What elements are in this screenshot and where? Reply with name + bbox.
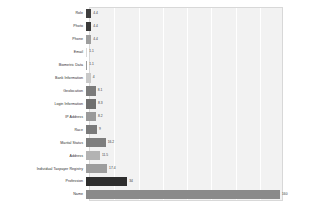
bar [86,99,96,108]
bar-row: Geolocation8.1 [0,85,312,98]
bar-value-label: 1.1 [89,50,94,54]
bar-row: Profession34 [0,175,312,188]
bar-value-label: 4.4 [93,12,98,16]
bar-value-label: 1.1 [89,63,94,67]
bar-track: 16.2 [86,136,312,149]
bar [86,112,96,121]
bar-value-label: 17.4 [109,167,115,171]
bar-track: 8.1 [86,85,312,98]
bar-value-label: 4 [93,76,95,80]
bar-track: 8.3 [86,97,312,110]
bar [86,61,87,70]
bar [86,73,91,82]
bar-value-label: 9 [99,128,101,132]
category-label: Photo [0,24,86,28]
bar-track: 160 [86,188,312,201]
bar [86,138,106,147]
bar-track: 4 [86,72,312,85]
bar-row: IP Address8.2 [0,110,312,123]
bar-value-label: 160 [282,193,288,197]
bar-track: 4.4 [86,33,312,46]
bar [86,151,100,160]
bar-value-label: 16.2 [108,141,114,145]
bar-track: 1.1 [86,46,312,59]
category-label: Profession [0,179,86,183]
bar-row: Biometric Data1.1 [0,59,312,72]
bar-track: 8.2 [86,110,312,123]
bar-row: Race9 [0,123,312,136]
bar-track: 11.5 [86,149,312,162]
bar-rows-container: Role4.4Photo4.4Phone4.4Email1.1Biometric… [0,7,312,201]
bar-value-label: 8.2 [98,115,103,119]
bar [86,35,91,44]
bar-row: Role4.4 [0,7,312,20]
bar [86,9,91,18]
category-label: Email [0,50,86,54]
bar-value-label: 11.5 [102,154,108,158]
category-label: Marital Status [0,141,86,145]
bar-track: 17.4 [86,162,312,175]
bar-chart: Role4.4Photo4.4Phone4.4Email1.1Biometric… [0,0,312,208]
category-label: Individual Taxpayer Registry [0,167,86,171]
bar-track: 4.4 [86,7,312,20]
bar [86,177,127,186]
bar [86,190,280,199]
bar-value-label: 4.4 [93,38,98,42]
bar-track: 34 [86,175,312,188]
bar-row: Address11.5 [0,149,312,162]
bar-row: Phone4.4 [0,33,312,46]
bar-row: Login Information8.3 [0,97,312,110]
bar [86,22,91,31]
bar-track: 4.4 [86,20,312,33]
category-label: Phone [0,37,86,41]
bar-row: Individual Taxpayer Registry17.4 [0,162,312,175]
category-label: Race [0,128,86,132]
bar-value-label: 4.4 [93,25,98,29]
bar-track: 9 [86,123,312,136]
bar [86,164,107,173]
category-label: Role [0,11,86,15]
bar [86,48,87,57]
category-label: Geolocation [0,89,86,93]
category-label: Name [0,192,86,196]
category-label: Login Information [0,102,86,106]
bar-row: Bank Information4 [0,72,312,85]
bar-track: 1.1 [86,59,312,72]
category-label: Bank Information [0,76,86,80]
bar [86,86,96,95]
bar [86,125,97,134]
category-label: Address [0,154,86,158]
bar-row: Name160 [0,188,312,201]
category-label: Biometric Data [0,63,86,67]
bar-row: Marital Status16.2 [0,136,312,149]
bar-row: Photo4.4 [0,20,312,33]
bar-value-label: 8.1 [98,89,103,93]
bar-row: Email1.1 [0,46,312,59]
bar-value-label: 34 [129,180,133,184]
category-label: IP Address [0,115,86,119]
bar-value-label: 8.3 [98,102,103,106]
